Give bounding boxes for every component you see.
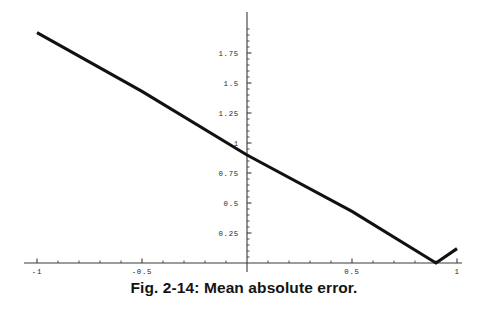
x-axis-tick-labels: -1-0.50.51 (32, 268, 460, 275)
chart-svg: -1-0.50.51 0.250.50.7511.251.51.75 (0, 0, 488, 275)
x-tick-label: 0.5 (344, 268, 359, 275)
y-tick-label: 1.25 (218, 110, 239, 118)
figure-caption: Fig. 2-14: Mean absolute error. (0, 279, 488, 297)
y-axis-major-ticks (247, 53, 252, 233)
y-tick-label: 0.25 (218, 230, 239, 238)
y-tick-label: 0.75 (218, 170, 239, 178)
x-tick-label: 1 (454, 268, 459, 275)
x-tick-label: -1 (32, 268, 42, 275)
x-tick-label: -0.5 (132, 268, 153, 275)
y-tick-label: 1.75 (218, 50, 239, 58)
y-tick-label: 1.5 (224, 80, 239, 88)
plot-area: -1-0.50.51 0.250.50.7511.251.51.75 (0, 0, 488, 275)
y-tick-label: 0.5 (224, 200, 239, 208)
figure-container: -1-0.50.51 0.250.50.7511.251.51.75 Fig. … (0, 0, 488, 311)
